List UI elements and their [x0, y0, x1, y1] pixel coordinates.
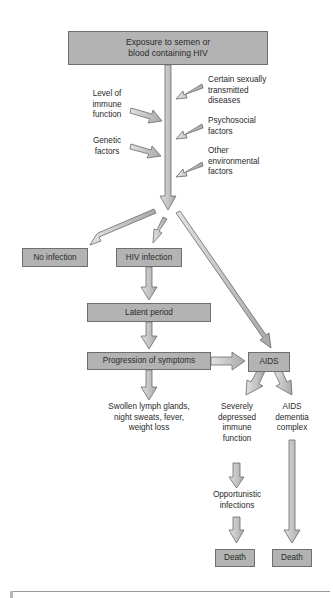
label-environmental: Other environmental factors	[208, 146, 308, 178]
arrow-to-hiv-infection	[153, 217, 167, 243]
death-box-left: Death	[215, 549, 255, 567]
arrow-progression-to-symptoms	[141, 370, 157, 400]
death-box-right: Death	[272, 549, 312, 567]
arrow-latent-to-progression	[141, 322, 157, 349]
arrow-to-aids	[176, 211, 271, 348]
label-depressed-immune: Severely depressed immune function	[208, 402, 266, 444]
arrow-opportunistic-to-death	[229, 517, 244, 543]
stem-arrow	[160, 65, 176, 210]
arrow-psycho	[176, 124, 203, 139]
label-opportunistic: Opportunistic infections	[200, 490, 274, 511]
progression-box: Progression of symptoms	[87, 352, 211, 370]
label-genetic-factors: Genetic factors	[84, 136, 130, 157]
latent-period-box: Latent period	[87, 303, 211, 322]
hiv-progression-diagram: Exposure to semen or blood containing HI…	[0, 0, 333, 598]
no-infection-box: No infection	[22, 248, 88, 267]
arrow-progression-to-aids	[211, 352, 245, 370]
label-immune-function: Level of immune function	[84, 89, 130, 121]
label-std: Certain sexually transmitted diseases	[208, 75, 328, 107]
aids-box: AIDS	[248, 352, 290, 372]
arrow-aids-to-depressed	[246, 371, 265, 395]
arrow-hiv-to-latent	[141, 267, 157, 300]
exposure-line1: Exposure to semen or	[126, 37, 210, 48]
label-psychosocial: Psychosocial factors	[208, 116, 308, 137]
bottom-divider-mark	[10, 591, 13, 598]
bottom-divider	[10, 591, 330, 592]
arrow-depressed-to-opportunistic	[229, 463, 244, 488]
label-symptoms: Swollen lymph glands, night sweats, feve…	[88, 402, 210, 434]
arrow-std	[176, 84, 203, 99]
hiv-infection-box: HIV infection	[116, 248, 182, 267]
exposure-box: Exposure to semen or blood containing HI…	[68, 31, 268, 65]
arrow-environment	[176, 162, 203, 177]
arrow-to-no-infection	[90, 209, 156, 245]
label-dementia: AIDS dementia complex	[266, 402, 318, 434]
arrow-aids-to-dementia	[274, 371, 292, 395]
arrow-immune	[130, 108, 162, 123]
arrow-genetic	[130, 144, 161, 158]
arrow-dementia-to-death	[284, 440, 300, 543]
exposure-line2: blood containing HIV	[128, 48, 207, 59]
